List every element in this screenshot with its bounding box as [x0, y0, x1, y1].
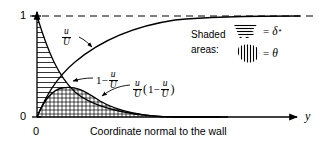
velocity-defect-numerator: u [109, 70, 118, 80]
momentum-integrand-open-paren: ( [143, 83, 147, 95]
legend-symbol-delta-superscript: * [279, 28, 282, 36]
velocity-defect-denominator: U [109, 80, 118, 91]
momentum-integrand-numerator: u [133, 79, 142, 89]
velocity-ratio-leader [79, 37, 92, 47]
y-tick-label-0: 0 [20, 111, 26, 122]
velocity-defect-label: 1− u U [96, 70, 118, 91]
legend-symbol-theta: θ [272, 48, 278, 60]
legend-entry-momentum: = θ [263, 48, 278, 60]
momentum-integrand-close-paren: ) [170, 83, 174, 95]
vertical-hatch-swatch [238, 44, 259, 62]
velocity-ratio-label: u U [62, 27, 71, 48]
x-axis-caption: Coordinate normal to the wall [90, 126, 227, 137]
legend-entry-displacement: = δ * [263, 26, 282, 38]
velocity-defect-prefix: 1− [96, 75, 108, 86]
momentum-integrand-minus: 1− [148, 84, 160, 95]
y-tick-label-1: 1 [20, 10, 26, 21]
velocity-ratio-denominator: U [62, 37, 71, 48]
horizontal-hatch-swatch [234, 25, 257, 39]
legend-title-line1: Shaded [191, 30, 225, 40]
momentum-integrand-inner-numerator: u [161, 79, 170, 89]
legend-symbol-delta: δ [272, 26, 277, 38]
legend-title-line2: areas: [191, 45, 219, 55]
momentum-integrand-label: u U ( 1− u U ) [133, 79, 174, 100]
velocity-ratio-numerator: u [62, 27, 71, 37]
legend-equals-displacement: = [263, 26, 269, 37]
momentum-integrand-inner-denominator: U [161, 89, 170, 100]
momentum-integrand-denominator: U [133, 89, 142, 100]
x-origin-label: 0 [33, 126, 39, 137]
velocity-defect-leader [73, 78, 93, 81]
x-axis-label: y [305, 110, 310, 122]
boundary-layer-thickness-figure: 1 0 0 Coordinate normal to the wall y u … [0, 0, 327, 149]
legend-equals-momentum: = [263, 48, 269, 59]
